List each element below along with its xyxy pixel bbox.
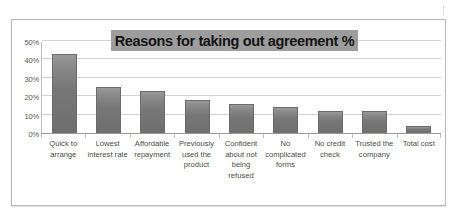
chart-frame: 50%40%30%20%10%0% Quick to arrangeLowest… — [11, 19, 446, 206]
x-axis-tick — [397, 134, 441, 138]
x-axis-category-label: Affordable repayment — [130, 139, 174, 205]
bar-slot — [131, 42, 175, 133]
bar-slot — [175, 42, 219, 133]
bar — [52, 54, 77, 133]
x-axis-category-label: Total cost — [397, 139, 441, 205]
x-axis-category-labels: Quick to arrangeLowest interest rateAffo… — [41, 139, 441, 205]
y-axis-tick-label: 50% — [25, 38, 39, 47]
bar — [406, 126, 431, 133]
bar-slot — [264, 42, 308, 133]
y-axis-tick-label: 0% — [29, 130, 39, 139]
scan-artifact — [443, 6, 444, 15]
y-axis-tick-label: 20% — [25, 93, 39, 102]
bar-slot — [397, 42, 441, 133]
plot-area — [41, 42, 441, 134]
x-axis-tick — [85, 134, 129, 138]
x-axis-category-label: Confident about not being refused — [219, 139, 263, 205]
x-axis-tick — [263, 134, 307, 138]
x-axis-tick-marks — [41, 134, 441, 138]
x-axis-category-label: Trusted the company — [352, 139, 396, 205]
x-axis-category-label: Lowest interest rate — [85, 139, 129, 205]
x-axis-tick — [130, 134, 174, 138]
y-axis: 50%40%30%20%10%0% — [16, 42, 39, 134]
x-axis-category-label: Quick to arrange — [41, 139, 85, 205]
bar — [229, 104, 254, 133]
y-axis-tick-label: 30% — [25, 74, 39, 83]
y-axis-tick-label: 10% — [25, 111, 39, 120]
x-axis-category-label: Previously used the product — [174, 139, 218, 205]
bar-series — [42, 42, 441, 133]
bar — [185, 100, 210, 133]
chart-title: Reasons for taking out agreement % — [115, 33, 355, 49]
bar — [96, 87, 121, 133]
chart-title-banner: Reasons for taking out agreement % — [111, 30, 358, 51]
bar — [362, 111, 387, 133]
x-axis-tick — [219, 134, 263, 138]
x-axis-category-label: No complicated forms — [263, 139, 307, 205]
x-axis-tick — [308, 134, 352, 138]
x-axis-tick — [352, 134, 396, 138]
x-axis-category-label: No credit check — [308, 139, 352, 205]
y-axis-tick-label: 40% — [25, 56, 39, 65]
bar — [273, 107, 298, 133]
bar-slot — [42, 42, 86, 133]
chart-page: 50%40%30%20%10%0% Quick to arrangeLowest… — [0, 0, 458, 223]
x-axis-tick — [41, 134, 85, 138]
bar-slot — [352, 42, 396, 133]
bar-slot — [86, 42, 130, 133]
bar-slot — [308, 42, 352, 133]
bar-slot — [219, 42, 263, 133]
bar — [140, 91, 165, 133]
x-axis-tick — [174, 134, 218, 138]
bar — [318, 111, 343, 133]
